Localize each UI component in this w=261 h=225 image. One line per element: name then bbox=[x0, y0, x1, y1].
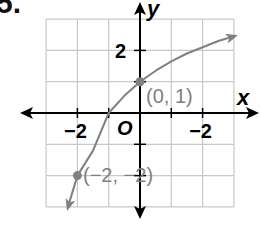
axes bbox=[20, 2, 259, 219]
x-tick-label: −2 bbox=[189, 120, 212, 142]
function-graph: yxO−2−22(0, 1)(−2, −2) bbox=[0, 0, 261, 225]
point-label-neg2-neg2: (−2, −2) bbox=[83, 164, 153, 186]
x-tick-label: −2 bbox=[64, 120, 87, 142]
labels: yxO−2−22(0, 1)(−2, −2) bbox=[64, 0, 250, 186]
x-axis-label: x bbox=[236, 85, 250, 110]
origin-label: O bbox=[117, 117, 133, 139]
data-point bbox=[136, 77, 145, 86]
y-axis-label: y bbox=[146, 0, 161, 21]
y-tick-label: 2 bbox=[115, 40, 126, 62]
data-point bbox=[73, 171, 82, 180]
point-label-0-1: (0, 1) bbox=[146, 85, 193, 107]
